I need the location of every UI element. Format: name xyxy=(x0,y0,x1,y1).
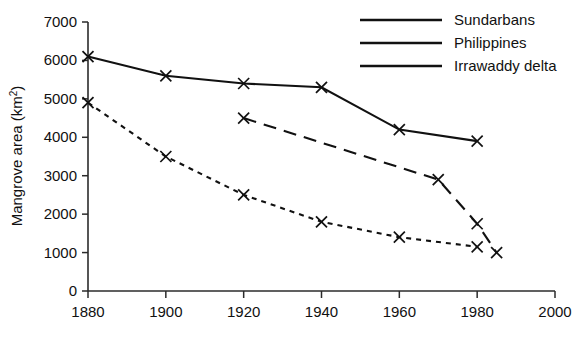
data-point-marker xyxy=(238,189,249,200)
x-tick-label: 1900 xyxy=(149,303,182,320)
y-axis-title: Mangrove area (km2) xyxy=(8,86,25,227)
y-tick-label: 4000 xyxy=(44,128,77,145)
series-philippines xyxy=(238,113,502,259)
series-path xyxy=(88,103,477,247)
data-point-marker xyxy=(316,216,327,227)
y-tick-label: 1000 xyxy=(44,244,77,261)
y-tick-label: 6000 xyxy=(44,51,77,68)
y-axis: 01000200030004000500060007000 xyxy=(44,13,88,299)
y-tick-label: 3000 xyxy=(44,167,77,184)
legend-item-irrawaddy-delta[interactable]: Irrawaddy delta xyxy=(360,57,557,74)
legend-label: Sundarbans xyxy=(454,11,535,28)
mangrove-area-chart: 01000200030004000500060007000 1880190019… xyxy=(0,0,580,340)
legend-item-sundarbans[interactable]: Sundarbans xyxy=(360,11,535,28)
data-series-group xyxy=(83,51,503,258)
data-point-marker xyxy=(394,232,405,243)
legend-label: Philippines xyxy=(454,34,527,51)
y-tick-label: 7000 xyxy=(44,13,77,30)
chart-legend: SundarbansPhilippinesIrrawaddy delta xyxy=(360,11,557,74)
x-tick-label: 1880 xyxy=(71,303,104,320)
data-point-marker xyxy=(472,241,483,252)
y-tick-label: 2000 xyxy=(44,205,77,222)
x-tick-label: 2000 xyxy=(538,303,571,320)
data-point-marker xyxy=(491,247,502,258)
chart-canvas: 01000200030004000500060007000 1880190019… xyxy=(0,0,580,340)
series-irrawaddy-delta xyxy=(83,97,483,252)
legend-item-philippines[interactable]: Philippines xyxy=(360,34,527,51)
y-tick-label: 5000 xyxy=(44,90,77,107)
data-point-marker xyxy=(238,113,249,124)
legend-label: Irrawaddy delta xyxy=(454,57,557,74)
data-point-marker xyxy=(472,218,483,229)
x-tick-label: 1920 xyxy=(227,303,260,320)
x-axis: 1880190019201940196019802000 xyxy=(71,291,571,320)
series-path xyxy=(88,57,477,142)
x-tick-label: 1960 xyxy=(383,303,416,320)
data-point-marker xyxy=(160,151,171,162)
data-point-marker xyxy=(433,174,444,185)
x-tick-label: 1940 xyxy=(305,303,338,320)
x-tick-label: 1980 xyxy=(460,303,493,320)
y-tick-label: 0 xyxy=(69,282,77,299)
